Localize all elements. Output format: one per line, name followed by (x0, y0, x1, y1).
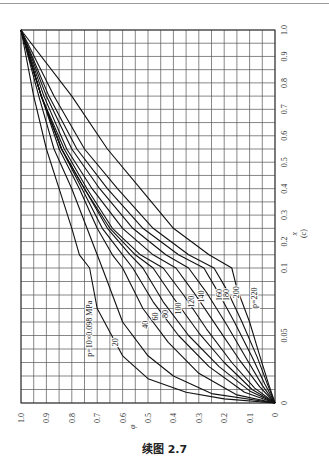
curve-label: 200 (232, 286, 241, 298)
phi-tick-label: 0 (271, 413, 280, 417)
x-tick-label: 0.6 (280, 131, 289, 141)
x-tick-label: 0.5 (280, 157, 289, 167)
panel-label: (c) (299, 229, 308, 238)
curve-label: 80 (161, 310, 170, 318)
curve-label: 60 (151, 313, 160, 321)
phi-axis-ticks: 1.00.90.80.70.60.50.40.30.20.10 (17, 413, 280, 423)
curve-label: 140 (197, 290, 206, 302)
phi-tick-label: 1.0 (17, 413, 26, 423)
x-tick-label: 1.0 (280, 25, 289, 35)
x-tick-label: 0.7 (280, 104, 289, 114)
curve-label: p=220 (250, 287, 259, 308)
curve-label: p=10×0.098 MPa (85, 300, 94, 357)
figure-caption: 续图 2.7 (0, 440, 329, 456)
chart-grid (21, 30, 275, 403)
x-tick-label: 0.2 (280, 237, 289, 247)
chart: p=10×0.098 MPa20406080100120140160180200… (0, 0, 329, 471)
phi-tick-label: 0.1 (246, 413, 255, 423)
phi-tick-label: 0.6 (119, 413, 128, 423)
curve-label: 40 (141, 321, 150, 329)
curve-label: 180 (222, 289, 231, 301)
phi-tick-label: 0.9 (42, 413, 51, 423)
curve-label: 100 (174, 303, 183, 315)
x-tick-label: 0.05 (280, 329, 289, 343)
phi-tick-label: 0.4 (169, 413, 178, 423)
phi-tick-label: 0.3 (195, 413, 204, 423)
phi-tick-label: 0.8 (68, 413, 77, 423)
x-tick-label: 0.4 (280, 184, 289, 194)
phi-tick-label: 0.2 (220, 413, 229, 423)
x-tick-label: 0.3 (280, 210, 289, 220)
x-tick-label: 0 (280, 401, 289, 405)
curve-label: 120 (187, 296, 196, 308)
phi-axis-title: φ (128, 424, 137, 429)
x-axis-title: x (290, 231, 299, 236)
x-axis-ticks: 1.00.90.80.70.60.50.40.30.20.10.050 (280, 25, 289, 405)
x-tick-label: 0.8 (280, 78, 289, 88)
phi-tick-label: 0.7 (93, 413, 102, 423)
curve-label: 20 (111, 338, 120, 346)
x-tick-label: 0.1 (280, 263, 289, 273)
x-tick-label: 0.9 (280, 51, 289, 61)
phi-tick-label: 0.5 (144, 413, 153, 423)
